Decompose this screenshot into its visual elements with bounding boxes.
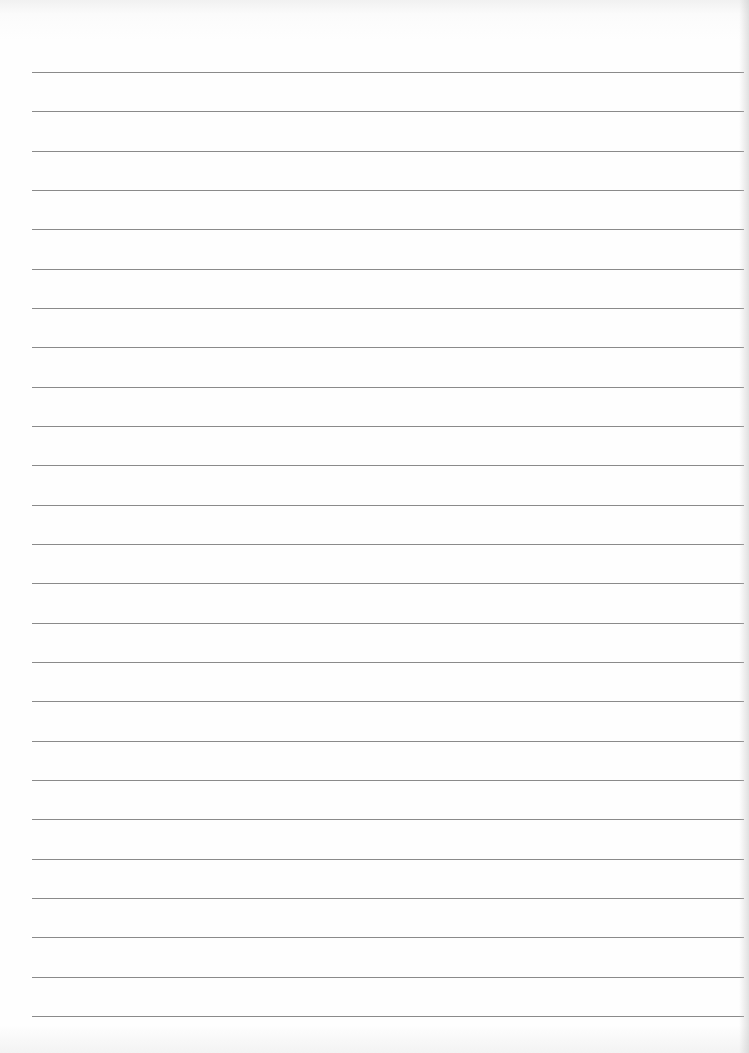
- ruled-line: [32, 426, 744, 427]
- ruled-line: [32, 544, 744, 545]
- ruled-line: [32, 662, 744, 663]
- page-edge-shadow: [739, 0, 749, 1053]
- ruled-line: [32, 387, 744, 388]
- ruled-line: [32, 977, 744, 978]
- ruled-line: [32, 465, 744, 466]
- ruled-line: [32, 190, 744, 191]
- ruled-line: [32, 269, 744, 270]
- ruled-line: [32, 623, 744, 624]
- ruled-line: [32, 701, 744, 702]
- ruled-line: [32, 780, 744, 781]
- ruled-line: [32, 741, 744, 742]
- ruled-line: [32, 505, 744, 506]
- ruled-line: [32, 229, 744, 230]
- ruled-line: [32, 308, 744, 309]
- ruled-line: [32, 819, 744, 820]
- ruled-line: [32, 937, 744, 938]
- lined-paper-sheet: [0, 0, 749, 1053]
- ruled-line: [32, 347, 744, 348]
- ruled-line: [32, 72, 744, 73]
- ruled-line: [32, 151, 744, 152]
- ruled-line: [32, 898, 744, 899]
- ruled-line: [32, 583, 744, 584]
- ruled-line: [32, 1016, 744, 1017]
- ruled-line: [32, 111, 744, 112]
- ruled-line: [32, 859, 744, 860]
